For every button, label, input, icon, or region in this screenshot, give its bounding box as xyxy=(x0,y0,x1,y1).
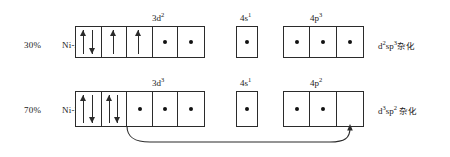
group-label-4s-ni-b: 4s1 xyxy=(240,78,251,88)
hybrid-mid-ni-b: sp xyxy=(386,106,394,116)
electron-pair-dot-icon xyxy=(163,107,167,111)
group-label-4p-ni-b-sup: 2 xyxy=(319,76,322,83)
hybrid-mid-ni-a: sp xyxy=(386,41,394,51)
orbital-cell-3d-2-ni-b[interactable] xyxy=(102,92,128,126)
orbital-cell-4p-2-ni-a[interactable] xyxy=(310,27,336,57)
orbital-cell-3d-5-ni-a[interactable] xyxy=(178,27,204,57)
hybridization-label-ni-a: d2sp3杂化 xyxy=(378,39,415,51)
electron-pair-dot-icon xyxy=(321,40,325,44)
group-label-4s-ni-b-sup: 1 xyxy=(248,76,251,83)
spin-up-arrow-icon xyxy=(106,95,113,123)
group-label-4s-ni-a-base: 4s xyxy=(240,13,248,23)
group-label-4p-ni-a-base: 4p xyxy=(310,13,319,23)
group-label-3d-ni-b: 3d3 xyxy=(152,78,164,88)
group-label-4s-ni-a: 4s1 xyxy=(240,13,251,23)
group-label-4s-ni-b-base: 4s xyxy=(240,78,248,88)
spin-up-arrow-icon xyxy=(80,30,87,54)
electron-pair-dot-icon xyxy=(189,107,193,111)
orbital-cell-4p-3-ni-b[interactable] xyxy=(337,92,363,126)
group-label-4p-ni-a-sup: 3 xyxy=(319,11,322,18)
electron-pair-dot-icon xyxy=(189,40,193,44)
orbital-cell-3d-2-ni-a[interactable] xyxy=(102,27,128,57)
electron-pair-dot-icon xyxy=(295,107,299,111)
row-percent-ni-a: 30% xyxy=(24,40,41,50)
orbital-group-4s-ni-b[interactable] xyxy=(236,91,258,127)
group-label-3d-ni-a-sup: 2 xyxy=(161,11,164,18)
hybrid-cjk-ni-a: 杂化 xyxy=(397,41,415,51)
orbital-cell-4p-1-ni-b[interactable] xyxy=(284,92,310,126)
orbital-cell-3d-5-ni-b[interactable] xyxy=(178,92,204,126)
electron-pair-dot-icon xyxy=(348,40,352,44)
spin-up-arrow-icon xyxy=(110,30,117,54)
spin-down-arrow-icon xyxy=(114,95,121,123)
electron-pair-dot-icon xyxy=(321,107,325,111)
orbital-cell-3d-3-ni-b[interactable] xyxy=(127,92,153,126)
electron-pair-dot-icon xyxy=(138,107,142,111)
orbital-cell-4s-1-ni-a[interactable] xyxy=(237,27,257,57)
hybrid-cjk-ni-b: 杂化 xyxy=(399,106,417,116)
orbital-cell-4p-1-ni-a[interactable] xyxy=(284,27,310,57)
spin-up-arrow-icon xyxy=(80,95,87,123)
row-percent-ni-b: 70% xyxy=(24,105,41,115)
orbital-cell-4s-1-ni-b[interactable] xyxy=(237,92,257,126)
group-label-4p-ni-a: 4p3 xyxy=(310,13,322,23)
electron-pair-dot-icon xyxy=(245,107,249,111)
group-label-4p-ni-b: 4p2 xyxy=(310,78,322,88)
orbital-cell-3d-4-ni-a[interactable] xyxy=(153,27,179,57)
group-label-4s-ni-a-sup: 1 xyxy=(248,11,251,18)
orbital-group-4p-ni-a[interactable] xyxy=(283,26,364,58)
electron-pair-dot-icon xyxy=(245,40,249,44)
group-label-3d-ni-b-base: 3d xyxy=(152,78,161,88)
group-label-3d-ni-a-base: 3d xyxy=(152,13,161,23)
spin-down-arrow-icon xyxy=(89,95,96,123)
spin-down-arrow-icon xyxy=(89,30,96,54)
group-label-4p-ni-b-base: 4p xyxy=(310,78,319,88)
orbital-group-4p-ni-b[interactable] xyxy=(283,91,364,127)
orbital-cell-3d-4-ni-b[interactable] xyxy=(153,92,179,126)
orbital-cell-3d-1-ni-a[interactable] xyxy=(76,27,102,57)
group-label-3d-ni-b-sup: 3 xyxy=(161,76,164,83)
electron-pair-dot-icon xyxy=(163,40,167,44)
orbital-group-3d-ni-b[interactable] xyxy=(75,91,205,127)
hybrid-sup2-ni-b: 2 xyxy=(394,104,397,111)
orbital-diagram: 30% Ni-A 3d2 4s1 xyxy=(0,0,450,157)
orbital-group-3d-ni-a[interactable] xyxy=(75,26,205,58)
electron-pair-dot-icon xyxy=(295,40,299,44)
spin-up-arrow-icon xyxy=(135,30,142,54)
hybridization-label-ni-b: d3sp2 杂化 xyxy=(378,104,417,116)
group-label-3d-ni-a: 3d2 xyxy=(152,13,164,23)
orbital-row-ni-b: 70% Ni-B 3d3 xyxy=(0,62,450,140)
orbital-cell-3d-1-ni-b[interactable] xyxy=(76,92,102,126)
orbital-cell-3d-3-ni-a[interactable] xyxy=(127,27,153,57)
orbital-cell-4p-2-ni-b[interactable] xyxy=(310,92,336,126)
orbital-group-4s-ni-a[interactable] xyxy=(236,26,258,58)
orbital-cell-4p-3-ni-a[interactable] xyxy=(337,27,363,57)
